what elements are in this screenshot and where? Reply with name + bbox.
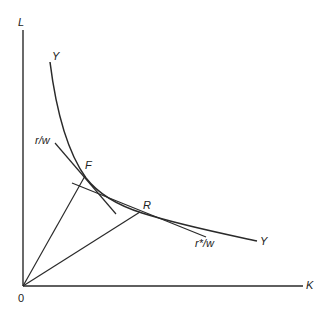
l-axis-label: L xyxy=(18,17,24,28)
point-label-f: F xyxy=(85,160,92,171)
isoquant-diagram: L K 0 Y Y r/w r*/w F R xyxy=(0,0,328,310)
tangent-label-r-w: r/w xyxy=(35,135,50,146)
isoquant-curve xyxy=(50,62,257,241)
tangent-r-w xyxy=(55,143,116,214)
point-label-r: R xyxy=(143,200,151,211)
origin-label: 0 xyxy=(18,293,24,304)
tangent-label-r-star-w: r*/w xyxy=(195,238,214,249)
curve-label-bottom: Y xyxy=(260,236,267,247)
tangent-r-star-w xyxy=(72,183,206,237)
curve-label-top: Y xyxy=(52,51,59,62)
diagram-graphics xyxy=(0,0,328,310)
ray-origin-to-f xyxy=(23,176,85,286)
ray-origin-to-r xyxy=(23,212,140,286)
k-axis-label: K xyxy=(306,280,313,291)
